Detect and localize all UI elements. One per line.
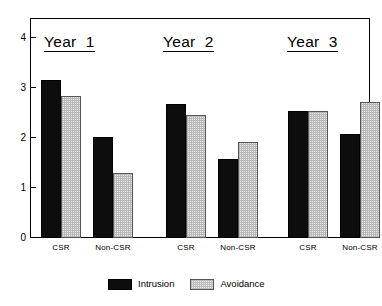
group-title-year-2: Year 2 [163, 33, 214, 52]
x-axis-label-year-1-csr: CSR [31, 243, 91, 252]
bar-year-3-non-csr-avoidance [360, 102, 380, 238]
group-title-year-3: Year 3 [287, 33, 338, 52]
bar-year-2-non-csr-intrusion [218, 159, 238, 238]
bar-year-1-non-csr-intrusion [93, 137, 113, 239]
bar-year-1-non-csr-avoidance [113, 173, 133, 238]
x-axis-label-year-2-csr: CSR [156, 243, 216, 252]
chart-legend: Intrusion Avoidance [108, 276, 308, 292]
x-axis-label-year-3-csr: CSR [278, 243, 338, 252]
group-title-year-1: Year 1 [44, 33, 95, 52]
legend-entry-intrusion: Intrusion [108, 279, 174, 290]
bar-year-3-csr-avoidance [308, 111, 328, 239]
bar-year-3-non-csr-intrusion [340, 134, 360, 238]
bar-year-1-csr-intrusion [41, 80, 61, 238]
legend-swatch-avoidance [190, 279, 214, 290]
legend-swatch-intrusion [108, 279, 132, 290]
x-axis-label-year-1-non-csr: Non-CSR [83, 243, 143, 252]
legend-label-intrusion: Intrusion [138, 279, 174, 289]
legend-entry-avoidance: Avoidance [190, 279, 264, 290]
bar-year-3-csr-intrusion [288, 111, 308, 238]
bar-year-2-csr-avoidance [186, 115, 206, 238]
x-axis-label-year-2-non-csr: Non-CSR [208, 243, 268, 252]
bar-year-2-csr-intrusion [166, 104, 186, 238]
x-axis-label-year-3-non-csr: Non-CSR [330, 243, 382, 252]
bar-chart-figure: 01234 CSRNon-CSRCSRNon-CSRCSRNon-CSR Yea… [0, 0, 382, 306]
bar-year-2-non-csr-avoidance [238, 142, 258, 238]
bar-year-1-csr-avoidance [61, 96, 81, 238]
legend-label-avoidance: Avoidance [220, 279, 264, 289]
